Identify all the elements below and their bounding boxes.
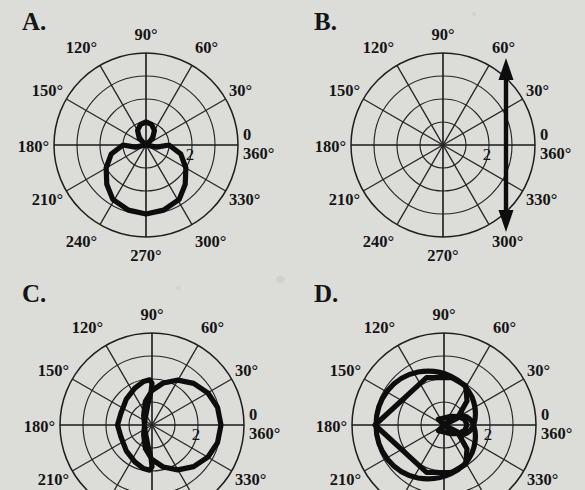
panel-b-polar-chart: 0 360° 30° 60° 90° 120° 150° 180° 210° 2… bbox=[292, 0, 585, 270]
tick-label-60: 60° bbox=[201, 318, 224, 337]
panel-b: B. 0 360° 30° 60° 90° 120° 1 bbox=[292, 0, 585, 270]
panel-c: C. 0 360° 30° 60° 90° 120° 1 bbox=[0, 270, 293, 490]
tick-label-90: 90° bbox=[432, 305, 455, 324]
tick-label-60: 60° bbox=[493, 318, 516, 337]
tick-label-30: 30° bbox=[526, 81, 549, 100]
tick-label-60: 60° bbox=[195, 38, 218, 57]
tick-label-330: 330° bbox=[526, 190, 557, 209]
panel-a: A. 0 360° 30° 60° 90° 120° 1 bbox=[0, 0, 293, 270]
tick-label-240: 240° bbox=[66, 232, 97, 251]
tick-label-30: 30° bbox=[235, 361, 258, 380]
tick-label-210: 210° bbox=[38, 470, 69, 489]
tick-label-360: 360° bbox=[249, 424, 280, 443]
paper-speck bbox=[276, 276, 285, 283]
panel-d: D. 0 360° 30° 60° 90° 120° 1 bbox=[292, 270, 585, 490]
tick-label-360: 360° bbox=[243, 144, 274, 163]
tick-label-360: 360° bbox=[540, 144, 571, 163]
tick-label-180: 180° bbox=[24, 417, 55, 436]
tick-label-150: 150° bbox=[329, 81, 360, 100]
tick-label-0: 0 bbox=[243, 125, 251, 144]
tick-label-210: 210° bbox=[32, 190, 63, 209]
tick-label-90: 90° bbox=[431, 25, 454, 44]
tick-label-210: 210° bbox=[329, 190, 360, 209]
tick-label-120: 120° bbox=[363, 38, 394, 57]
tick-label-300: 300° bbox=[195, 232, 226, 251]
polar-plot-figure: A. 0 360° 30° 60° 90° 120° 1 bbox=[0, 0, 585, 490]
tick-label-180: 180° bbox=[316, 417, 347, 436]
tick-label-330: 330° bbox=[527, 470, 558, 489]
panel-a-polar-chart: 0 360° 30° 60° 90° 120° 150° 180° 210° 2… bbox=[0, 0, 293, 270]
radius-tick-label: 2 bbox=[483, 145, 492, 164]
tick-label-150: 150° bbox=[32, 81, 63, 100]
tick-label-360: 360° bbox=[541, 424, 572, 443]
tick-label-210: 210° bbox=[330, 470, 361, 489]
tick-label-120: 120° bbox=[66, 38, 97, 57]
panel-c-polar-chart: 0 360° 30° 60° 90° 120° 150° 180° 210° 2… bbox=[0, 270, 293, 490]
tick-label-0: 0 bbox=[541, 405, 549, 424]
tick-label-180: 180° bbox=[315, 137, 346, 156]
arrow-head-up bbox=[499, 58, 514, 80]
tick-label-30: 30° bbox=[229, 81, 252, 100]
tick-label-0: 0 bbox=[249, 405, 257, 424]
paper-speck bbox=[176, 286, 181, 290]
radius-tick-label: 2 bbox=[192, 425, 201, 444]
arrow-head-down bbox=[499, 210, 514, 232]
tick-label-90: 90° bbox=[134, 25, 157, 44]
tick-label-270: 270° bbox=[427, 246, 458, 265]
tick-label-150: 150° bbox=[38, 361, 69, 380]
tick-label-150: 150° bbox=[330, 361, 361, 380]
tick-label-240: 240° bbox=[363, 232, 394, 251]
tick-label-330: 330° bbox=[235, 470, 266, 489]
tick-label-300: 300° bbox=[492, 232, 523, 251]
radius-tick-label: 2 bbox=[186, 145, 195, 164]
radius-tick-label: 2 bbox=[484, 425, 493, 444]
tick-label-120: 120° bbox=[72, 318, 103, 337]
paper-speck bbox=[472, 12, 476, 16]
tick-label-60: 60° bbox=[492, 38, 515, 57]
tick-label-270: 270° bbox=[130, 246, 161, 265]
tick-label-120: 120° bbox=[364, 318, 395, 337]
tick-label-30: 30° bbox=[527, 361, 550, 380]
tick-label-180: 180° bbox=[18, 137, 49, 156]
tick-label-330: 330° bbox=[229, 190, 260, 209]
tick-label-0: 0 bbox=[540, 125, 548, 144]
panel-d-polar-chart: 0 360° 30° 60° 90° 120° 150° 180° 210° 2… bbox=[292, 270, 585, 490]
tick-label-90: 90° bbox=[140, 305, 163, 324]
